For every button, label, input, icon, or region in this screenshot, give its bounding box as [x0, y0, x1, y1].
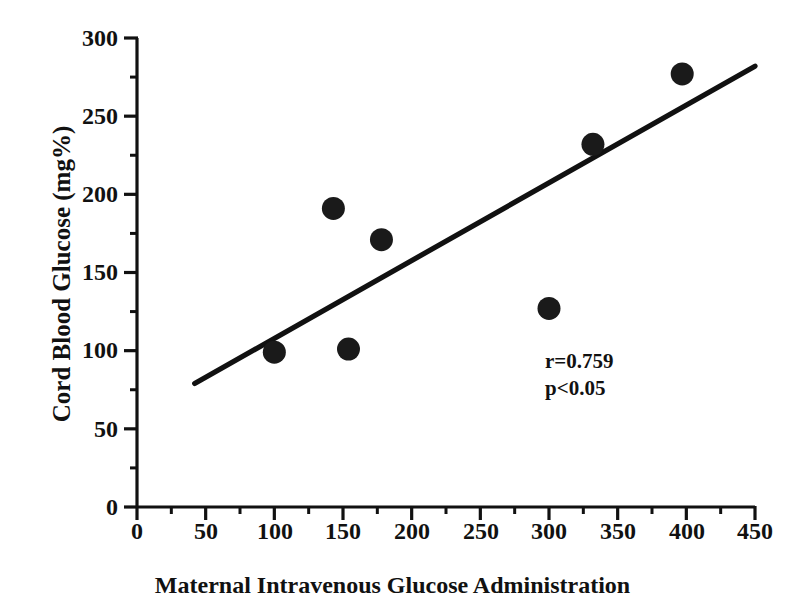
plot-area — [0, 0, 785, 610]
regression-line — [195, 66, 755, 383]
data-point-0-6 — [671, 62, 694, 85]
data-points — [263, 62, 694, 363]
axes — [124, 38, 755, 520]
data-point-0-2 — [337, 338, 360, 361]
data-point-0-3 — [370, 228, 393, 251]
data-point-0-5 — [581, 133, 604, 156]
data-point-0-1 — [322, 197, 345, 220]
data-point-0-0 — [263, 341, 286, 364]
data-point-0-4 — [538, 297, 561, 320]
scatter-plot-figure: Cord Blood Glucose (mg%) Maternal Intrav… — [0, 0, 785, 610]
linear-regression-line — [195, 66, 755, 383]
